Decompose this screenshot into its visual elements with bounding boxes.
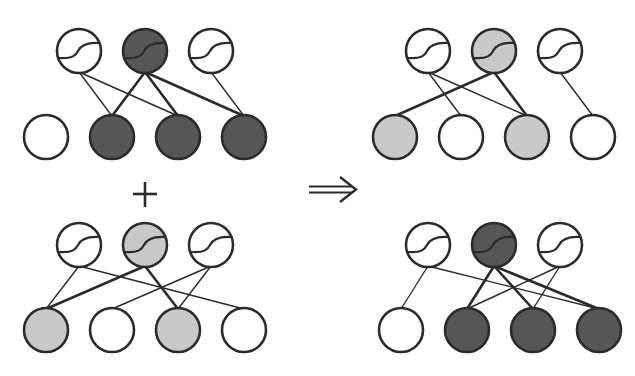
hidden-unit-dark <box>472 223 516 267</box>
diagram-canvas <box>0 0 635 376</box>
visible-unit-dark <box>445 308 489 352</box>
network-panel-top-right <box>373 29 615 159</box>
edges <box>79 72 244 116</box>
connection-edge-thin <box>560 72 593 116</box>
connection-edge-thick <box>46 266 145 309</box>
edges <box>401 266 599 309</box>
visible-unit-light <box>505 115 549 159</box>
hidden-unit-empty <box>189 223 233 267</box>
visible-unit-empty <box>571 115 615 159</box>
edges <box>395 72 593 116</box>
visible-unit-dark <box>222 115 266 159</box>
connection-edge-thick <box>145 72 244 116</box>
hidden-unit-empty <box>57 223 101 267</box>
edges <box>46 266 244 309</box>
network-panel-top-left <box>24 29 266 159</box>
visible-unit-empty <box>379 308 423 352</box>
hidden-unit-empty <box>406 29 450 73</box>
visible-unit-dark <box>90 115 134 159</box>
hidden-unit-empty <box>538 29 582 73</box>
hidden-unit-light <box>123 223 167 267</box>
connection-edge-thick <box>112 72 145 116</box>
implies-arrow-icon <box>309 177 356 202</box>
visible-unit-dark <box>577 308 621 352</box>
visible-unit-empty <box>24 115 68 159</box>
network-panel-bottom-left <box>24 223 266 352</box>
visible-unit-light <box>156 308 200 352</box>
hidden-unit-dark <box>123 29 167 73</box>
hidden-unit-empty <box>189 29 233 73</box>
hidden-unit-empty <box>538 223 582 267</box>
connection-edge-thin <box>401 266 428 309</box>
visible-unit-dark <box>511 308 555 352</box>
network-combination-diagram <box>0 0 635 376</box>
visible-unit-light <box>373 115 417 159</box>
connection-edge-thin <box>112 266 211 309</box>
visible-unit-empty <box>439 115 483 159</box>
visible-unit-dark <box>156 115 200 159</box>
hidden-unit-light <box>472 29 516 73</box>
visible-unit-empty <box>222 308 266 352</box>
hidden-unit-empty <box>57 29 101 73</box>
plus-operator-icon <box>133 182 157 207</box>
panels-layer <box>24 29 621 352</box>
visible-unit-empty <box>90 308 134 352</box>
network-panel-bottom-right <box>379 223 621 352</box>
visible-unit-light <box>24 308 68 352</box>
hidden-unit-empty <box>406 223 450 267</box>
